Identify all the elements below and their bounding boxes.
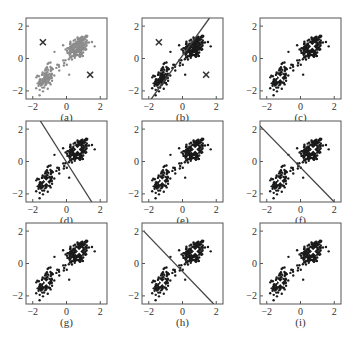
y-tick-label: 0 <box>134 53 139 64</box>
scatter-plot: −202−202 <box>26 223 107 304</box>
scatter-plot: −202−202 <box>142 121 223 202</box>
scatter-panel-a: −202−202(a) <box>26 18 107 99</box>
y-tick-label: 0 <box>18 258 23 269</box>
y-tick-label: 0 <box>18 53 23 64</box>
scatter-panel-i: −202−202(i) <box>260 223 341 304</box>
scatter-plot: −202−202 <box>260 223 341 304</box>
x-tick-label: 2 <box>98 306 103 317</box>
y-tick-label: −2 <box>246 85 257 96</box>
y-tick-label: 2 <box>134 21 139 32</box>
x-tick-label: −2 <box>27 101 38 112</box>
y-tick-label: 0 <box>252 156 257 167</box>
y-tick-label: −2 <box>246 188 257 199</box>
scatter-plot: −202−202 <box>142 18 223 99</box>
x-tick-label: −2 <box>27 306 38 317</box>
y-tick-label: 2 <box>18 124 23 135</box>
y-tick-label: 2 <box>252 21 257 32</box>
scatter-panel-g: −202−202(g) <box>26 223 107 304</box>
x-tick-label: 2 <box>98 204 103 215</box>
x-tick-label: −2 <box>143 204 154 215</box>
y-tick-label: 2 <box>134 226 139 237</box>
y-tick-label: 0 <box>134 258 139 269</box>
x-tick-label: −2 <box>261 306 272 317</box>
y-tick-label: 2 <box>18 21 23 32</box>
scatter-plot: −202−202 <box>260 121 341 202</box>
y-tick-label: −2 <box>12 85 23 96</box>
x-tick-label: 2 <box>214 204 219 215</box>
y-tick-label: 0 <box>18 156 23 167</box>
scatter-panel-b: −202−202(b) <box>142 18 223 99</box>
x-tick-label: 2 <box>98 101 103 112</box>
x-tick-label: −2 <box>261 204 272 215</box>
scatter-panel-d: −202−202(d) <box>26 121 107 202</box>
y-tick-label: −2 <box>128 188 139 199</box>
scatter-panel-e: −202−202(e) <box>142 121 223 202</box>
scatter-panel-f: −202−202(f) <box>260 121 341 202</box>
y-tick-label: 0 <box>252 53 257 64</box>
y-tick-label: 2 <box>18 226 23 237</box>
y-tick-label: −2 <box>12 290 23 301</box>
panel-caption: (h) <box>168 316 198 328</box>
y-tick-label: 2 <box>134 124 139 135</box>
panel-caption: (g) <box>52 316 82 328</box>
scatter-plot: −202−202 <box>26 121 107 202</box>
x-tick-label: 2 <box>332 204 337 215</box>
y-tick-label: −2 <box>128 85 139 96</box>
y-tick-label: −2 <box>246 290 257 301</box>
y-tick-label: 2 <box>252 226 257 237</box>
scatter-plot: −202−202 <box>142 223 223 304</box>
scatter-panel-h: −202−202(h) <box>142 223 223 304</box>
scatter-plot: −202−202 <box>260 18 341 99</box>
x-tick-label: −2 <box>143 306 154 317</box>
y-tick-label: 0 <box>252 258 257 269</box>
x-tick-label: 2 <box>214 306 219 317</box>
x-tick-label: 2 <box>332 306 337 317</box>
y-tick-label: −2 <box>12 188 23 199</box>
scatter-panel-c: −202−202(c) <box>260 18 341 99</box>
y-tick-label: 0 <box>134 156 139 167</box>
y-tick-label: 2 <box>252 124 257 135</box>
panel-caption: (i) <box>286 316 316 328</box>
y-tick-label: −2 <box>128 290 139 301</box>
scatter-plot: −202−202 <box>26 18 107 99</box>
x-tick-label: −2 <box>27 204 38 215</box>
x-tick-label: −2 <box>143 101 154 112</box>
x-tick-label: −2 <box>261 101 272 112</box>
x-tick-label: 2 <box>332 101 337 112</box>
x-tick-label: 2 <box>214 101 219 112</box>
